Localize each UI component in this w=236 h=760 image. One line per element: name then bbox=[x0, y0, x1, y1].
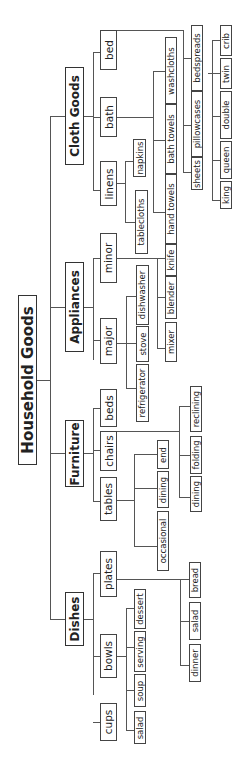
connector bbox=[179, 497, 190, 498]
connector bbox=[83, 116, 93, 117]
node-label: Cloth Goods bbox=[68, 75, 82, 157]
connector bbox=[179, 455, 190, 456]
connector bbox=[50, 116, 65, 117]
node-label: Appliances bbox=[68, 270, 82, 344]
connector bbox=[83, 619, 93, 620]
node-bedspreads: bedspreads bbox=[191, 25, 203, 91]
connector bbox=[93, 258, 94, 360]
node-cups: cups bbox=[100, 703, 117, 741]
node-mixer: mixer bbox=[165, 322, 177, 362]
connector bbox=[153, 71, 165, 72]
connector bbox=[117, 183, 125, 184]
node-label: dessert bbox=[135, 593, 145, 625]
connector bbox=[36, 380, 50, 381]
connector bbox=[50, 453, 65, 454]
node-stove: stove bbox=[136, 326, 149, 362]
node-bed: bed bbox=[100, 30, 117, 70]
connector bbox=[83, 453, 93, 454]
node-bath-towels: bath towels bbox=[165, 104, 177, 174]
node-furniture: Furniture bbox=[65, 420, 84, 487]
node-bread: bread bbox=[189, 562, 201, 598]
connector bbox=[212, 40, 213, 201]
connector bbox=[134, 546, 157, 547]
node-folding: folding bbox=[190, 436, 202, 474]
connector bbox=[93, 722, 100, 723]
node-label: refrigerator bbox=[138, 369, 148, 418]
connector bbox=[126, 296, 136, 297]
connector bbox=[117, 117, 153, 118]
connector bbox=[117, 431, 179, 432]
connector bbox=[125, 161, 126, 223]
node-label: plates bbox=[103, 558, 115, 590]
node-label: pillowcases bbox=[192, 100, 202, 149]
connector bbox=[157, 258, 165, 259]
connector bbox=[157, 297, 165, 298]
node-refrigerator: refrigerator bbox=[136, 364, 149, 422]
node-crib: crib bbox=[220, 25, 232, 56]
connector bbox=[93, 573, 100, 574]
node-label: Furniture bbox=[68, 422, 82, 485]
connector bbox=[93, 408, 94, 501]
connector bbox=[153, 212, 165, 213]
node-label: dining bbox=[158, 476, 168, 502]
node-pillowcases: pillowcases bbox=[191, 91, 203, 157]
connector bbox=[153, 140, 165, 141]
node-tables-dining: dining bbox=[157, 471, 169, 508]
node-label: reclining bbox=[191, 391, 201, 427]
connector bbox=[93, 52, 100, 53]
node-label: bread bbox=[190, 568, 200, 593]
connector bbox=[93, 52, 94, 190]
connector bbox=[93, 573, 94, 695]
connector bbox=[125, 161, 133, 162]
connector bbox=[134, 488, 157, 489]
node-label: knife bbox=[166, 250, 176, 271]
node-tablecloths: tablecloths bbox=[135, 190, 148, 254]
node-bowls-salad: salad bbox=[134, 711, 146, 744]
node-plates: plates bbox=[100, 551, 117, 597]
node-beds: beds bbox=[100, 389, 117, 427]
node-dinner: dinner bbox=[189, 644, 201, 682]
node-end: end bbox=[157, 440, 169, 469]
node-hand-towels: hand towels bbox=[165, 174, 177, 244]
node-minor: minor bbox=[100, 233, 117, 283]
connector bbox=[153, 71, 154, 212]
connector bbox=[180, 579, 189, 580]
connector bbox=[134, 454, 135, 546]
node-label: dining bbox=[191, 481, 201, 507]
node-label: mixer bbox=[166, 330, 176, 354]
node-label: end bbox=[158, 446, 168, 462]
node-label: king bbox=[221, 186, 231, 204]
node-label: bowls bbox=[103, 641, 115, 671]
node-major: major bbox=[100, 318, 117, 364]
connector bbox=[212, 73, 220, 74]
connector bbox=[50, 307, 65, 308]
node-label: salad bbox=[190, 610, 200, 633]
connector bbox=[126, 343, 136, 344]
node-serving: serving bbox=[134, 631, 146, 672]
node-label: bath bbox=[103, 105, 115, 129]
node-label: tablecloths bbox=[137, 199, 147, 246]
node-label: salad bbox=[135, 716, 145, 739]
node-reclining: reclining bbox=[190, 386, 202, 432]
node-label: bath towels bbox=[166, 114, 176, 164]
node-label: linens bbox=[103, 168, 115, 199]
connector bbox=[83, 307, 93, 308]
node-washcloths: washcloths bbox=[165, 37, 177, 104]
connector bbox=[126, 730, 134, 731]
connector bbox=[180, 621, 189, 622]
node-label: cups bbox=[103, 710, 115, 735]
connector bbox=[93, 190, 100, 191]
node-bowls: bowls bbox=[100, 634, 117, 678]
connector bbox=[126, 647, 134, 648]
node-label: dishwasher bbox=[138, 271, 148, 319]
node-label: folding bbox=[191, 440, 201, 469]
connector bbox=[183, 30, 184, 172]
node-label: chairs bbox=[103, 435, 115, 467]
connector bbox=[180, 665, 189, 666]
connector bbox=[183, 172, 191, 173]
node-label: bed bbox=[103, 40, 115, 60]
node-label: major bbox=[103, 326, 115, 356]
node-occasional: occasional bbox=[157, 511, 169, 571]
connector bbox=[117, 500, 134, 501]
connector bbox=[50, 619, 65, 620]
